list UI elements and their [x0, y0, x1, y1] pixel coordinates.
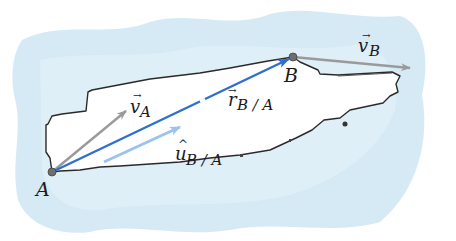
- point-b-label: B: [283, 64, 298, 86]
- hull-porthole: [343, 122, 348, 127]
- carrier-vector-diagram: A B → v A ^ u B / A → r B / A → v B: [0, 0, 456, 241]
- v-b-label: v: [358, 35, 368, 56]
- u-ba-label: u: [175, 143, 187, 164]
- hull-mark: [240, 154, 243, 157]
- v-a-label: v: [130, 96, 140, 117]
- point-b-marker: [289, 53, 297, 61]
- hull-mark: [289, 139, 291, 142]
- v-a-subscript: A: [138, 103, 151, 121]
- point-a-label: A: [34, 178, 50, 200]
- v-b-subscript: B: [368, 42, 380, 60]
- r-ba-subscript: B / A: [236, 96, 274, 114]
- u-ba-subscript: B / A: [185, 151, 223, 169]
- point-a-marker: [48, 168, 56, 176]
